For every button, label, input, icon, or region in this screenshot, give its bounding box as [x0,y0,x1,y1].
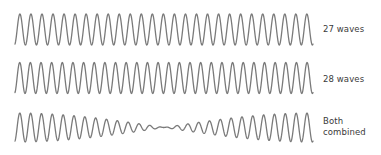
wave-combined-beat [15,113,313,142]
wave-28-cycles [15,63,313,94]
wave-27-cycles [15,14,313,45]
label-both-combined-line1: Both [323,116,343,127]
label-both-combined-line2: combined [323,127,366,138]
label-27-waves: 27 waves [323,24,364,35]
label-28-waves: 28 waves [323,74,364,85]
